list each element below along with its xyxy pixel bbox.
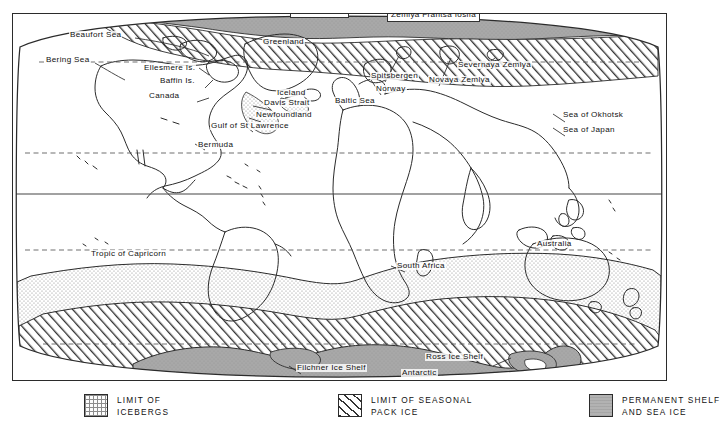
map-label-baltic-sea: Baltic Sea bbox=[334, 97, 376, 105]
map-label-zemlya-frantsa-iosifa: Zemlya Frantsa Iosifa bbox=[387, 13, 480, 22]
legend-label-icebergs: LIMIT OFICEBERGS bbox=[117, 394, 169, 418]
legend-label-pack-ice: LIMIT OF SEASONALPACK ICE bbox=[371, 394, 472, 418]
map-label-greenland: Greenland bbox=[262, 38, 305, 46]
legend-item-permanent-ice: PERMANENT SHELFAND SEA ICE bbox=[589, 394, 720, 418]
map-label-south-africa: South Africa bbox=[396, 262, 446, 270]
map-label-newfoundland: Newfoundland bbox=[255, 111, 313, 119]
legend-item-pack-ice: LIMIT OF SEASONALPACK ICE bbox=[338, 394, 472, 418]
map-label-baffin-is: Baffin Is. bbox=[159, 77, 196, 85]
map-label-beaufort-sea: Beaufort Sea bbox=[69, 31, 122, 39]
legend-swatch-pack-ice bbox=[338, 394, 362, 417]
map-label-australia: Australia bbox=[536, 240, 573, 248]
map-label-iceland: Iceland bbox=[276, 89, 307, 97]
world-map-graphic bbox=[13, 14, 665, 379]
map-label-bering-sea: Bering Sea bbox=[45, 56, 91, 64]
map-label-severnaya-zemlya: Severnaya Zemlya bbox=[457, 61, 532, 69]
map-label-norway: Norway bbox=[375, 85, 407, 93]
map-legend: LIMIT OFICEBERGSLIMIT OF SEASONALPACK IC… bbox=[12, 392, 667, 425]
map-frame: Arctic OceanZemlya Frantsa IosifaBeaufor… bbox=[12, 13, 667, 381]
map-label-sea-of-okhotsk: Sea of Okhotsk bbox=[562, 111, 624, 119]
map-label-gulf-of-st-lawrence: Gulf of St Lawrence bbox=[210, 122, 290, 130]
legend-item-icebergs: LIMIT OFICEBERGS bbox=[84, 394, 169, 418]
map-label-antarctic: Antarctic bbox=[401, 369, 438, 377]
map-label-spitsbergen: Spitsbergen bbox=[370, 72, 419, 80]
map-label-ellesmere-is: Ellesmere Is. bbox=[143, 64, 196, 72]
legend-label-permanent-ice: PERMANENT SHELFAND SEA ICE bbox=[622, 394, 720, 418]
map-label-canada: Canada bbox=[148, 92, 180, 100]
legend-swatch-permanent-ice bbox=[589, 394, 613, 417]
map-label-ross-ice-shelf: Ross Ice Shelf bbox=[425, 353, 484, 361]
map-label-davis-strait: Davis Strait bbox=[263, 99, 311, 107]
map-label-sea-of-japan: Sea of Japan bbox=[562, 126, 616, 134]
map-label-arctic-ocean: Arctic Ocean bbox=[290, 13, 349, 18]
map-label-bermuda: Bermuda bbox=[197, 141, 234, 149]
legend-swatch-icebergs bbox=[84, 394, 108, 417]
map-label-filchner-ice-shelf: Filchner Ice Shelf bbox=[296, 364, 367, 372]
map-label-tropic-of-capricorn: Tropic of Capricorn bbox=[90, 250, 167, 258]
map-label-novaya-zemlya: Novaya Zemlya bbox=[428, 76, 491, 84]
